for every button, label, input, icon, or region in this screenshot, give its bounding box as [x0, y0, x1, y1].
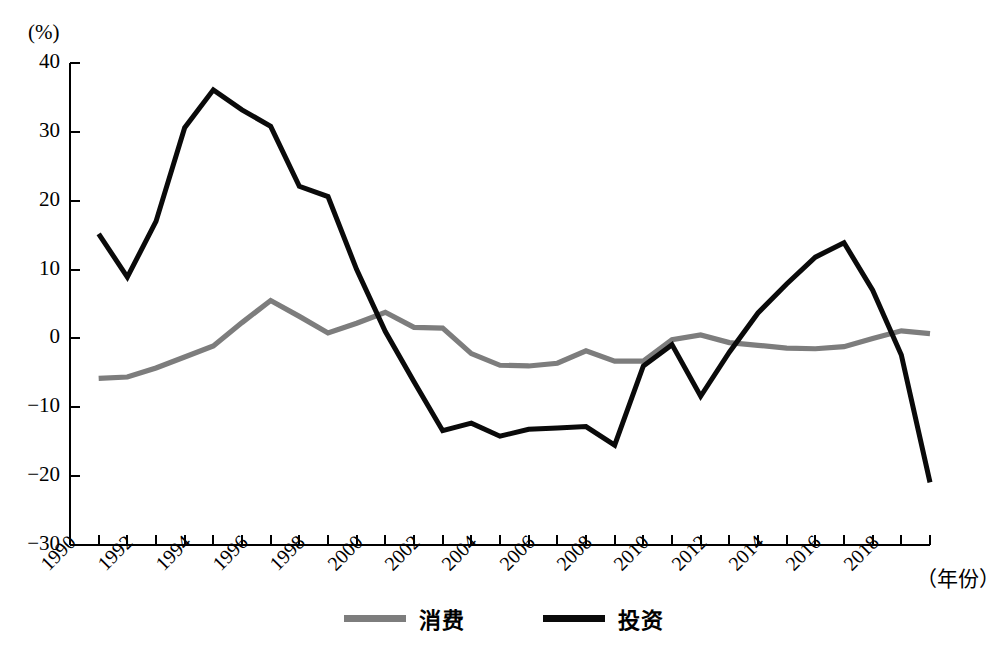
chart-legend: 消费 投资	[0, 602, 1007, 634]
y-axis-tick-label: 10	[18, 256, 60, 281]
legend-item-consumption: 消费	[344, 602, 465, 634]
legend-label-investment: 投资	[618, 602, 664, 634]
y-axis-tick-label: 40	[18, 49, 60, 74]
x-axis-title: （年份）	[916, 562, 1000, 592]
y-axis-tick-label: 20	[18, 187, 60, 212]
y-axis-tick-label: −20	[18, 462, 60, 487]
series-line-investment	[99, 90, 930, 482]
chart-series-layer	[99, 90, 930, 482]
chart-container: (%) 403020100−10−20−30 19901992199419961…	[0, 0, 1007, 661]
chart-axes	[70, 63, 930, 545]
legend-swatch-consumption-icon	[344, 615, 406, 622]
y-axis-tick-label: −10	[18, 393, 60, 418]
legend-label-consumption: 消费	[419, 602, 465, 634]
series-line-consumption	[99, 301, 930, 379]
legend-swatch-investment-icon	[543, 615, 605, 622]
y-axis-tick-label: 30	[18, 118, 60, 143]
y-axis-tick-label: 0	[18, 324, 60, 349]
legend-item-investment: 投资	[543, 602, 664, 634]
